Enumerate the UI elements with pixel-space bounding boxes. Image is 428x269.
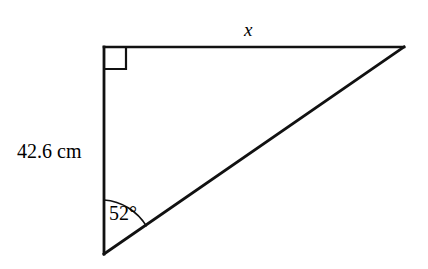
right-angle-square-icon	[104, 47, 126, 69]
triangle-hypotenuse	[104, 47, 404, 254]
triangle-drawing	[0, 0, 428, 269]
geometry-figure: x 42.6 cm 52°	[0, 0, 428, 269]
label-angle-measure: 52°	[109, 203, 137, 223]
label-unknown-side-x: x	[244, 20, 252, 39]
label-vertical-side-length: 42.6 cm	[17, 141, 81, 161]
